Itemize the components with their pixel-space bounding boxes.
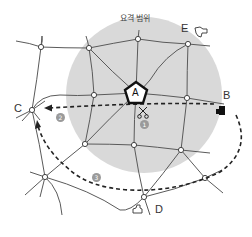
interception-range-label: 요격 범위	[120, 15, 150, 23]
route-3-arrowhead	[35, 120, 41, 129]
point-a-label: A	[132, 88, 139, 98]
point-e-label: E	[181, 23, 188, 34]
route-2-badge: 2	[56, 113, 65, 122]
point-c-label: C	[14, 103, 22, 114]
route-3-badge: 3	[92, 173, 101, 182]
route-2-arrowhead	[44, 105, 52, 112]
building-outline-icon-e	[195, 27, 207, 37]
point-b-label: B	[223, 90, 230, 101]
road-network-diagram	[0, 0, 252, 237]
point-d-label: D	[155, 204, 163, 215]
route-1-badge: 1	[140, 120, 149, 129]
